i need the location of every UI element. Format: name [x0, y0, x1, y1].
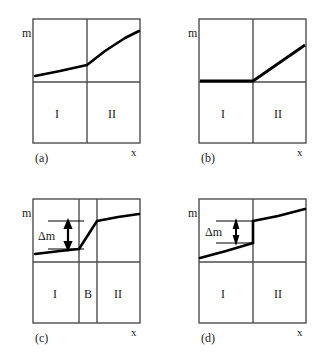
panel-d-curve-region-II	[253, 209, 305, 221]
panel-c-caption: (c)	[35, 331, 48, 346]
panel-a: m x I II	[0, 0, 166, 180]
panel-d-region-II: II	[274, 287, 282, 301]
panel-d-region-I: I	[221, 287, 225, 301]
panel-c: Δm m x I B II	[0, 180, 166, 360]
panel-d-xlabel: x	[297, 326, 303, 338]
panel-b-ylabel: m	[188, 26, 198, 40]
panel-c-delta-label: Δm	[38, 229, 56, 243]
panel-d-frame	[199, 199, 306, 323]
panel-a-xlabel: x	[131, 146, 137, 158]
panel-a-region-II: II	[108, 107, 116, 121]
panel-d-delta-arrow	[233, 218, 240, 246]
panel-c-region-II: II	[114, 287, 122, 301]
panel-b-caption: (b)	[201, 151, 215, 166]
panel-d-ylabel: m	[188, 206, 198, 220]
panel-a-caption: (a)	[35, 151, 48, 166]
panel-c-region-B: B	[84, 287, 92, 301]
panel-b: m x I II	[166, 0, 332, 180]
panel-d-delta-label: Δm	[205, 225, 223, 239]
panel-c-xlabel: x	[131, 326, 137, 338]
figure-panel-grid: m x I II (a) m x I II (b)	[0, 0, 333, 361]
panel-d-curve-region-I	[200, 243, 253, 258]
panel-c-delta-arrow	[63, 218, 72, 252]
panel-c-frame	[33, 199, 140, 323]
panel-c-ylabel: m	[22, 206, 32, 220]
panel-d-caption: (d)	[201, 331, 215, 346]
panel-c-region-I: I	[53, 287, 57, 301]
panel-a-region-I: I	[55, 107, 59, 121]
panel-b-xlabel: x	[297, 146, 303, 158]
panel-b-region-I: I	[221, 107, 225, 121]
panel-a-ylabel: m	[22, 26, 32, 40]
panel-d: Δm m x I II	[166, 180, 332, 360]
panel-b-region-II: II	[274, 107, 282, 121]
